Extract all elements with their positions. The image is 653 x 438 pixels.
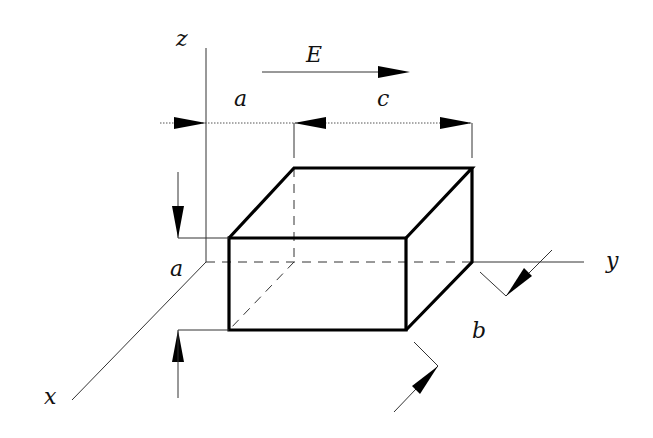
arrowhead-icon — [174, 117, 206, 129]
hidden-edges — [206, 168, 472, 330]
x-axis-line — [72, 262, 206, 400]
label-c: c — [377, 86, 389, 111]
box-top-face — [229, 168, 472, 238]
arrowhead-icon — [412, 366, 438, 394]
arrowhead-icon — [378, 66, 410, 78]
box-in-field-diagram: E a c a b z y x — [0, 0, 653, 438]
label-a-side: a — [170, 256, 183, 281]
dimension-top: a c — [160, 86, 472, 158]
label-a-top: a — [234, 86, 247, 111]
arrowhead-icon — [172, 206, 184, 238]
dimension-height: a — [170, 172, 229, 398]
arrowhead-icon — [506, 268, 532, 296]
label-z-axis: z — [175, 26, 188, 51]
field-arrow-e: E — [262, 42, 410, 78]
axes — [72, 48, 584, 400]
label-y-axis: y — [605, 248, 619, 273]
label-b: b — [472, 318, 486, 343]
box-right-face — [406, 168, 472, 330]
dimension-depth: b — [394, 250, 552, 412]
box — [229, 168, 472, 330]
hidden-edge-depth-bottom — [229, 262, 294, 330]
box-front-face — [229, 238, 406, 330]
label-e: E — [305, 42, 322, 67]
arrowhead-icon — [440, 117, 472, 129]
arrowhead-icon — [294, 117, 326, 129]
label-x-axis: x — [44, 384, 57, 409]
